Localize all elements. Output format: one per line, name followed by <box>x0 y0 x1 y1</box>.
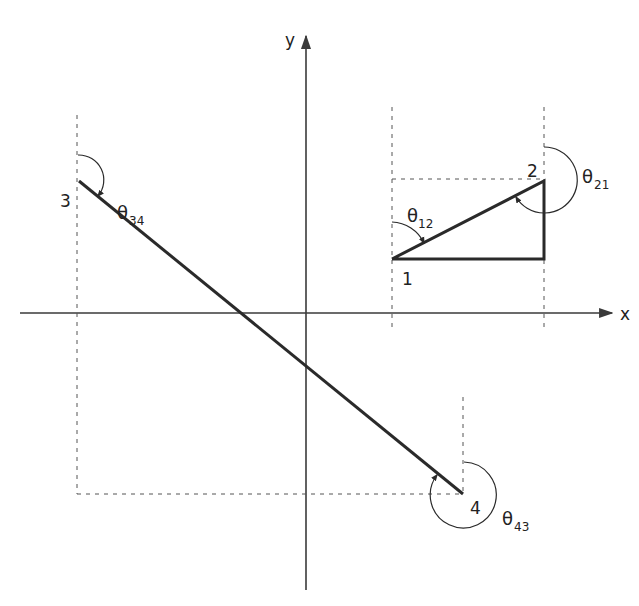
angle-label-theta12: θ 12 <box>407 205 433 231</box>
angle-label-theta34: θ 34 <box>117 202 144 228</box>
x-axis-label: x <box>620 304 630 324</box>
angle-label-theta43: θ 43 <box>502 508 529 534</box>
point-label-1: 1 <box>402 269 413 289</box>
coordinate-diagram: x y 1 2 3 4 θ 12 θ 21 θ 34 θ 43 <box>0 0 639 606</box>
svg-text:θ: θ <box>582 166 593 187</box>
angle-label-theta21: θ 21 <box>582 166 609 192</box>
svg-text:θ: θ <box>407 205 418 226</box>
svg-text:34: 34 <box>129 214 144 228</box>
svg-text:21: 21 <box>594 178 609 192</box>
svg-text:θ: θ <box>117 202 128 223</box>
svg-text:12: 12 <box>418 217 433 231</box>
svg-text:43: 43 <box>514 520 529 534</box>
y-axis-label: y <box>285 30 295 50</box>
point-label-3: 3 <box>60 191 71 211</box>
point-label-4: 4 <box>470 498 481 518</box>
svg-text:θ: θ <box>502 508 513 529</box>
angle-arc-theta21 <box>516 147 577 213</box>
projection-lines <box>77 107 544 494</box>
point-label-2: 2 <box>527 161 538 181</box>
